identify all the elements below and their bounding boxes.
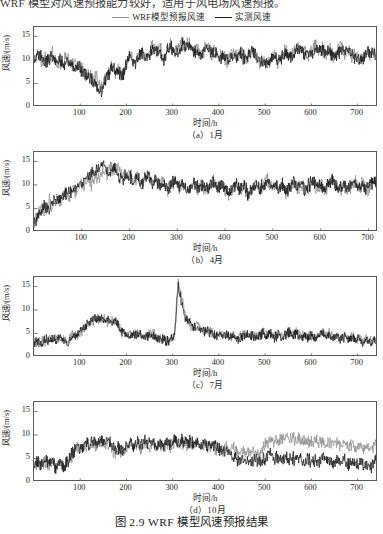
y-tick-label: 0 bbox=[26, 227, 30, 235]
x-tick-label: 500 bbox=[258, 482, 271, 493]
panel-caption-b: （b）4月 bbox=[33, 254, 377, 266]
x-tick-label: 400 bbox=[212, 482, 225, 493]
figure-title: 图 2.9 WRF 模型风速预报结果 bbox=[0, 515, 383, 529]
series-line-wrf bbox=[34, 37, 377, 93]
y-tick-label: 15 bbox=[22, 406, 30, 414]
plot-area-d bbox=[33, 401, 377, 481]
legend-line-observed-icon bbox=[215, 17, 232, 18]
x-axis-label-d: 时间/h bbox=[33, 493, 377, 504]
series-canvas bbox=[34, 277, 377, 356]
y-axis-ticks-d: 051015 bbox=[10, 401, 30, 481]
x-tick-label: 500 bbox=[258, 107, 271, 118]
series-canvas bbox=[34, 152, 377, 231]
y-tick-label: 5 bbox=[26, 78, 30, 86]
y-tick-label: 10 bbox=[22, 430, 30, 438]
x-tick-label: 700 bbox=[361, 232, 374, 243]
panel-d: 风速/(m/s) 051015 100200300400500600700 时间… bbox=[0, 401, 383, 489]
x-axis-label-b: 时间/h bbox=[33, 243, 377, 254]
y-tick-label: 15 bbox=[22, 156, 30, 164]
series-line-observed bbox=[34, 434, 377, 474]
x-tick-label: 600 bbox=[304, 357, 317, 368]
x-axis-ticks-a: 100200300400500600700 bbox=[33, 107, 377, 118]
y-tick-label: 10 bbox=[22, 180, 30, 188]
panel-caption-c: （c）7月 bbox=[33, 379, 377, 391]
series-line-wrf bbox=[34, 162, 377, 225]
panel-a: 风速/(m/s) 051015 100200300400500600700 时间… bbox=[0, 26, 383, 114]
x-tick-label: 100 bbox=[73, 107, 86, 118]
y-axis-ticks-a: 051015 bbox=[10, 26, 30, 106]
y-tick-label: 0 bbox=[26, 477, 30, 485]
x-tick-label: 200 bbox=[119, 107, 132, 118]
series-canvas bbox=[34, 27, 377, 106]
x-tick-label: 700 bbox=[350, 107, 363, 118]
series-line-observed bbox=[34, 161, 377, 228]
plot-area-a bbox=[33, 26, 377, 106]
x-tick-label: 600 bbox=[304, 482, 317, 493]
x-axis-ticks-b: 100200300400500600700 bbox=[33, 232, 377, 243]
x-tick-label: 700 bbox=[350, 357, 363, 368]
x-axis-ticks-d: 100200300400500600700 bbox=[33, 482, 377, 493]
x-tick-label: 300 bbox=[170, 232, 183, 243]
x-tick-label: 600 bbox=[313, 232, 326, 243]
x-tick-label: 300 bbox=[165, 482, 178, 493]
x-tick-label: 400 bbox=[212, 107, 225, 118]
x-tick-label: 100 bbox=[73, 482, 86, 493]
plot-area-c bbox=[33, 276, 377, 356]
x-tick-label: 100 bbox=[74, 232, 87, 243]
y-tick-label: 0 bbox=[26, 102, 30, 110]
x-tick-label: 700 bbox=[350, 482, 363, 493]
panel-c: 风速/(m/s) 051015 100200300400500600700 时间… bbox=[0, 276, 383, 364]
y-tick-label: 15 bbox=[22, 31, 30, 39]
y-tick-label: 10 bbox=[22, 305, 30, 313]
y-tick-label: 5 bbox=[26, 328, 30, 336]
x-tick-label: 600 bbox=[304, 107, 317, 118]
legend-item-observed: 实测风速 bbox=[215, 10, 271, 24]
panel-b: 风速/(m/s) 051015 100200300400500600700 时间… bbox=[0, 151, 383, 239]
chart-legend: WRF模型预报风速 实测风速 bbox=[0, 10, 383, 24]
legend-line-wrf-icon bbox=[112, 17, 129, 18]
y-tick-label: 10 bbox=[22, 55, 30, 63]
panel-caption-a: （a）1月 bbox=[33, 129, 377, 141]
legend-label-wrf: WRF模型预报风速 bbox=[132, 10, 205, 24]
x-axis-label-c: 时间/h bbox=[33, 368, 377, 379]
x-tick-label: 200 bbox=[119, 482, 132, 493]
plot-area-b bbox=[33, 151, 377, 231]
page-body-text: WRF 模型对风速预报能力较好，适用于风电场风速预报。 bbox=[0, 0, 383, 10]
x-axis-label-a: 时间/h bbox=[33, 118, 377, 129]
x-tick-label: 500 bbox=[258, 357, 271, 368]
x-tick-label: 100 bbox=[73, 357, 86, 368]
legend-item-wrf: WRF模型预报风速 bbox=[112, 10, 205, 24]
y-tick-label: 5 bbox=[26, 203, 30, 211]
series-canvas bbox=[34, 402, 377, 481]
y-axis-ticks-c: 051015 bbox=[10, 276, 30, 356]
legend-label-observed: 实测风速 bbox=[235, 10, 271, 24]
x-tick-label: 300 bbox=[165, 107, 178, 118]
x-tick-label: 500 bbox=[266, 232, 279, 243]
x-axis-ticks-c: 100200300400500600700 bbox=[33, 357, 377, 368]
y-tick-label: 15 bbox=[22, 281, 30, 289]
x-tick-label: 300 bbox=[165, 357, 178, 368]
x-tick-label: 400 bbox=[212, 357, 225, 368]
x-tick-label: 400 bbox=[218, 232, 231, 243]
series-line-observed bbox=[34, 282, 377, 347]
x-tick-label: 200 bbox=[122, 232, 135, 243]
y-axis-ticks-b: 051015 bbox=[10, 151, 30, 231]
x-tick-label: 200 bbox=[119, 357, 132, 368]
series-line-wrf bbox=[34, 432, 377, 472]
y-tick-label: 0 bbox=[26, 352, 30, 360]
y-tick-label: 5 bbox=[26, 453, 30, 461]
